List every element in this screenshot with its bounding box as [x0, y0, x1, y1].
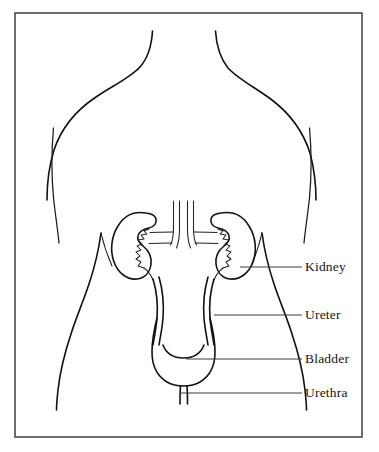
kidney-right-outline [211, 213, 256, 280]
ureter-right-medial-wall [204, 277, 208, 345]
leader-lines [180, 267, 302, 393]
ureter-left [153, 277, 163, 345]
label-kidney: Kidney [305, 260, 346, 274]
renal-vessel-right-upper [194, 232, 217, 233]
rib-accent-left [101, 233, 112, 266]
vena-cava-left-wall [171, 201, 174, 245]
renal-vessel-right-lower [195, 243, 218, 244]
label-bladder: Bladder [305, 352, 349, 366]
anatomy-diagram: Kidney Ureter Bladder Urethra [0, 0, 379, 452]
diagram-frame [15, 13, 362, 437]
label-ureter: Ureter [305, 308, 341, 322]
renal-vessel-left-lower [149, 243, 172, 244]
kidney-left [112, 213, 157, 280]
urethra [180, 386, 188, 404]
renal-vessel-left-upper [150, 232, 173, 233]
aorta-left-wall [188, 201, 191, 248]
kidney-left-hilum-neck [144, 268, 153, 280]
torso-left-flank [57, 233, 102, 410]
neck-left-shoulder-outline [47, 31, 153, 200]
urethra-left-wall [180, 386, 181, 404]
vena-cava-right-wall [177, 201, 180, 248]
kidney-right [211, 213, 256, 280]
label-urethra: Urethra [305, 386, 348, 400]
ureter-left-medial-wall [159, 277, 163, 345]
ureter-right [204, 277, 214, 345]
bladder-inner-lining [163, 345, 204, 358]
kidney-left-outline [112, 213, 157, 280]
neck-right-shoulder-outline [216, 31, 317, 200]
torso-right-flank [262, 233, 307, 410]
kidney-right-hilum-neck [214, 268, 223, 280]
great-vessels-group [149, 201, 218, 248]
aorta-right-wall [194, 201, 197, 245]
urethra-right-wall [187, 386, 188, 404]
